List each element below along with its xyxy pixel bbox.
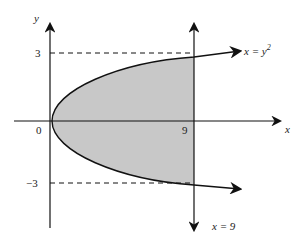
region-diagram: y x 3 −3 0 9 x = y2 x = 9 bbox=[0, 0, 305, 242]
x-axis-label: x bbox=[284, 123, 290, 135]
tick-label-9: 9 bbox=[182, 124, 188, 136]
diagram-canvas: y x 3 −3 0 9 x = y2 x = 9 bbox=[0, 0, 305, 242]
tick-label-3: 3 bbox=[35, 47, 41, 59]
vertical-line-label: x = 9 bbox=[211, 220, 236, 232]
parabola-label-exponent: 2 bbox=[267, 43, 271, 52]
tick-label-neg3: −3 bbox=[26, 177, 38, 189]
y-axis-label: y bbox=[33, 12, 39, 24]
parabola-label-lhs: x = y bbox=[243, 45, 267, 57]
parabola-label: x = y2 bbox=[243, 43, 271, 57]
origin-label: 0 bbox=[36, 124, 42, 136]
